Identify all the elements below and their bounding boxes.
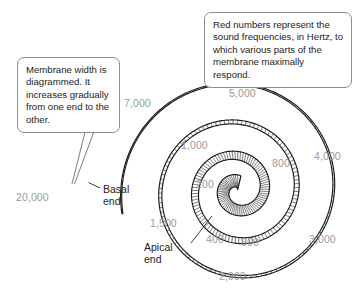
callout-red-numbers-text: Red numbers represent the sound frequenc…	[213, 19, 344, 81]
apical-end-line2: end	[144, 253, 162, 265]
frequency-label-800: 800	[272, 158, 290, 169]
apical-end-label: Apical end	[144, 242, 173, 265]
frequency-label-5000: 5,000	[229, 88, 256, 99]
figure-canvas: 20,000 7,000 5,000 4,000 3,000 2,000 1,5…	[0, 0, 358, 288]
frequency-label-4000: 4,000	[314, 151, 341, 162]
basal-end-line2: end	[103, 195, 121, 207]
frequency-label-2000: 2,000	[219, 271, 246, 282]
frequency-label-7000: 7,000	[124, 98, 151, 109]
frequency-label-200: 200	[196, 179, 214, 190]
frequency-label-3000: 3,000	[309, 234, 336, 245]
basal-end-leader	[89, 183, 101, 189]
frequency-label-400: 400	[206, 234, 224, 245]
frequency-label-600: 600	[241, 237, 259, 248]
frequency-label-1500: 1,500	[150, 218, 177, 229]
frequency-label-20000: 20,000	[16, 192, 49, 203]
callout-membrane-width: Membrane width is diagrammed. It increas…	[17, 57, 120, 133]
basal-end-line1: Basal	[103, 183, 129, 195]
frequency-label-1000: 1,000	[181, 140, 208, 151]
callout-leader-left-a	[72, 126, 87, 184]
callout-membrane-width-text: Membrane width is diagrammed. It increas…	[26, 64, 112, 126]
callout-leader-left-b	[75, 126, 97, 184]
basal-end-label: Basal end	[103, 184, 129, 207]
callout-red-numbers: Red numbers represent the sound frequenc…	[204, 12, 352, 88]
apical-end-line1: Apical	[144, 241, 173, 253]
